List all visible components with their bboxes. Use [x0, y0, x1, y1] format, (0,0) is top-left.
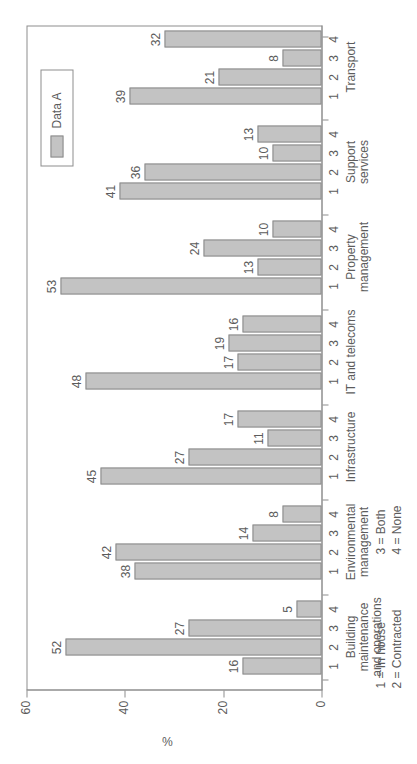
bar — [203, 240, 321, 257]
x-tick-label: 2 — [326, 639, 340, 655]
bar-value-label: 27 — [172, 620, 186, 637]
bar-value-label: 21 — [202, 69, 216, 86]
bar-value-label: 42 — [99, 544, 113, 561]
bar — [129, 88, 321, 105]
bar-value-label: 53 — [44, 278, 58, 295]
bar-value-label: 16 — [226, 658, 240, 675]
bar-value-label: 16 — [226, 316, 240, 333]
x-group-label: Property management — [344, 205, 370, 309]
x-group-separator — [322, 119, 328, 120]
bar-value-label: 11 — [251, 430, 265, 447]
x-tick-label: 4 — [326, 601, 340, 617]
x-group-label: IT and telecoms — [344, 300, 357, 404]
bar — [164, 31, 321, 48]
bar — [119, 183, 321, 200]
bar — [85, 373, 321, 390]
x-group-separator — [322, 404, 328, 405]
bar-value-label: 14 — [236, 525, 250, 542]
bar — [228, 335, 321, 352]
bar — [272, 145, 321, 162]
x-tick-label: 2 — [326, 164, 340, 180]
bar-value-label: 41 — [103, 183, 117, 200]
bar-value-label: 5 — [280, 601, 294, 618]
bar — [257, 259, 321, 276]
x-tick-label: 3 — [326, 430, 340, 446]
bar — [242, 316, 321, 333]
bar-value-label: 13 — [241, 126, 255, 143]
bar-value-label: 8 — [266, 506, 280, 523]
bar-value-label: 24 — [187, 240, 201, 257]
key-column-1: 1 = In house 2 = Contracted — [372, 609, 404, 688]
x-tick-label: 3 — [326, 240, 340, 256]
bar — [237, 411, 321, 428]
bar-value-label: 38 — [118, 563, 132, 580]
y-tick-label-40: 40 — [116, 700, 130, 720]
bar — [272, 221, 321, 238]
x-tick-label: 3 — [326, 50, 340, 66]
y-axis-line — [26, 689, 322, 690]
x-tick-label: 1 — [326, 88, 340, 104]
x-tick-label: 4 — [326, 506, 340, 522]
x-tick-label: 4 — [326, 126, 340, 142]
x-axis-line — [321, 25, 322, 690]
x-group-label: Infrastructure — [344, 395, 357, 499]
bar-value-label: 32 — [148, 31, 162, 48]
bar-value-label: 13 — [241, 259, 255, 276]
legend-swatch-data-a — [50, 135, 63, 157]
x-tick-label: 1 — [326, 468, 340, 484]
bar-value-label: 8 — [266, 50, 280, 67]
y-tick-label-60: 60 — [18, 700, 32, 720]
bar-chart-figure: 1652275384214845271117481719165313241041… — [0, 0, 417, 764]
x-group-separator — [322, 214, 328, 215]
bar-value-label: 36 — [128, 164, 142, 181]
bar — [65, 639, 321, 656]
bar — [188, 620, 321, 637]
x-tick-label: 1 — [326, 658, 340, 674]
bar-value-label: 17 — [221, 354, 235, 371]
bar — [115, 544, 322, 561]
bar — [296, 601, 321, 618]
x-tick-label: 1 — [326, 563, 340, 579]
bar — [134, 563, 321, 580]
bar-value-label: 10 — [256, 221, 270, 238]
bar — [282, 506, 321, 523]
bar — [188, 449, 321, 466]
x-tick-label: 1 — [326, 278, 340, 294]
bar-value-label: 48 — [69, 373, 83, 390]
y-tick-20 — [223, 690, 224, 697]
y-tick-0 — [321, 690, 322, 697]
bar — [282, 50, 321, 67]
bar — [242, 658, 321, 675]
bar-value-label: 19 — [212, 335, 226, 352]
bar — [218, 69, 321, 86]
x-group-separator — [322, 594, 328, 595]
x-tick-label: 2 — [326, 449, 340, 465]
bar-value-label: 27 — [172, 449, 186, 466]
x-group-separator — [322, 679, 328, 680]
x-tick-label: 3 — [326, 145, 340, 161]
x-tick-label: 2 — [326, 69, 340, 85]
x-tick-label: 4 — [326, 221, 340, 237]
y-tick-label-20: 20 — [215, 700, 229, 720]
bar-value-label: 10 — [256, 145, 270, 162]
y-axis-label: % — [162, 734, 173, 748]
x-tick-label: 2 — [326, 544, 340, 560]
key-column-2: 3 = Both 4 = None — [372, 505, 404, 554]
bar — [144, 164, 321, 181]
x-group-label: Support services — [344, 110, 370, 214]
x-tick-label: 3 — [326, 620, 340, 636]
x-group-label: Transport — [344, 15, 357, 119]
x-group-label: Environmental management — [344, 490, 370, 594]
x-tick-label: 3 — [326, 525, 340, 541]
x-group-separator — [322, 499, 328, 500]
rotated-figure-wrapper: 1652275384214845271117481719165313241041… — [0, 0, 417, 764]
legend-label-data-a: Data A — [49, 92, 63, 128]
chart-page: 1652275384214845271117481719165313241041… — [0, 0, 417, 764]
bar-value-label: 45 — [84, 468, 98, 485]
legend: Data A — [40, 69, 73, 166]
bar — [267, 430, 321, 447]
x-tick-label: 1 — [326, 183, 340, 199]
bar — [252, 525, 321, 542]
x-tick-label: 4 — [326, 31, 340, 47]
bar-value-label: 39 — [113, 88, 127, 105]
